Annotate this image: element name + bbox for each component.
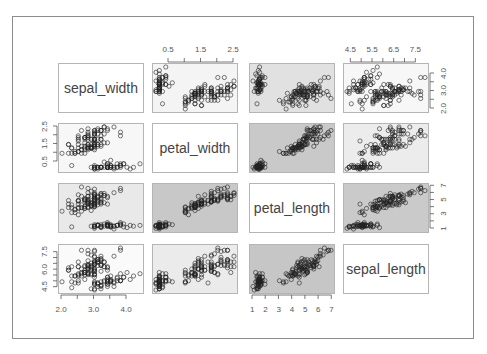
scatter-points — [344, 184, 428, 232]
axis-tick-label: 4.5 — [345, 45, 356, 54]
axis-tick-label: 3 — [276, 305, 280, 314]
variable-label-panel: sepal_length — [343, 244, 429, 294]
axis-tick-label: 5 — [303, 305, 307, 314]
scatter-points — [59, 184, 143, 232]
scatter-panel-petal_width-vs-sepal_width — [58, 123, 144, 173]
axis-tick-label: 2.5 — [40, 120, 49, 131]
axis-tick-label: 3 — [439, 212, 448, 216]
scatter-panel-petal_width-vs-sepal_length — [343, 123, 429, 173]
axis-tick-label: 2.0 — [439, 102, 448, 113]
cropped-header-text — [100, 0, 180, 6]
axis-tick-label: 6 — [316, 305, 320, 314]
axis-tick-label: 1 — [250, 305, 254, 314]
axis-tick-label: 4.5 — [40, 281, 49, 292]
axis-tick-label: 7.5 — [40, 246, 49, 257]
axis-tick-label: 4 — [290, 305, 294, 314]
scatter-panel-petal_width-vs-petal_length — [249, 123, 335, 173]
scatter-panel-petal_length-vs-petal_width — [152, 183, 238, 233]
variable-label: sepal_width — [64, 80, 138, 96]
scatter-panel-petal_length-vs-sepal_width — [58, 183, 144, 233]
axis-tick-label: 2.0 — [56, 305, 67, 314]
axis-tick-label: 6.0 — [40, 264, 49, 275]
variable-label-panel: petal_length — [249, 183, 335, 233]
scatter-points — [250, 245, 334, 293]
axis-tick-label: 3.0 — [88, 305, 99, 314]
scatter-points — [153, 64, 237, 112]
scatter-points — [153, 184, 237, 232]
scatter-points — [153, 245, 237, 293]
axis-tick-label: 5.5 — [367, 45, 378, 54]
axis-tick-label: 1.5 — [40, 138, 49, 149]
axis-tick-label: 7 — [329, 305, 333, 314]
scatter-panel-sepal_width-vs-sepal_length — [343, 63, 429, 113]
scatter-panel-sepal_width-vs-petal_length — [249, 63, 335, 113]
axis-tick-label: 2 — [263, 305, 267, 314]
axis-tick-label: 7.5 — [410, 45, 421, 54]
variable-label-panel: petal_width — [152, 123, 238, 173]
scatter-points — [250, 124, 334, 172]
axis-tick-label: 2.5 — [228, 45, 239, 54]
scatter-points — [59, 245, 143, 293]
axis-tick-label: 1 — [439, 226, 448, 230]
axis-tick-label: 4.0 — [439, 67, 448, 78]
scatter-points — [250, 64, 334, 112]
variable-label: petal_length — [254, 200, 330, 216]
axis-tick-label: 3.0 — [439, 85, 448, 96]
axis-tick-label: 4.0 — [121, 305, 132, 314]
axis-tick-label: 0.5 — [163, 45, 174, 54]
scatter-panel-sepal_length-vs-petal_width — [152, 244, 238, 294]
variable-label-panel: sepal_width — [58, 63, 144, 113]
axis-tick-label: 7 — [439, 183, 448, 187]
scatter-panel-sepal_width-vs-petal_width — [152, 63, 238, 113]
scatter-points — [344, 124, 428, 172]
axis-tick-label: 1.5 — [195, 45, 206, 54]
scatter-points — [59, 124, 143, 172]
axis-tick-label: 5 — [439, 197, 448, 201]
scatter-panel-sepal_length-vs-petal_length — [249, 244, 335, 294]
axis-tick-label: 0.5 — [40, 155, 49, 166]
scatter-points — [344, 64, 428, 112]
scatter-panel-sepal_length-vs-sepal_width — [58, 244, 144, 294]
scatter-panel-petal_length-vs-sepal_length — [343, 183, 429, 233]
axis-tick-label: 6.5 — [388, 45, 399, 54]
variable-label: sepal_length — [346, 261, 425, 277]
variable-label: petal_width — [160, 140, 231, 156]
